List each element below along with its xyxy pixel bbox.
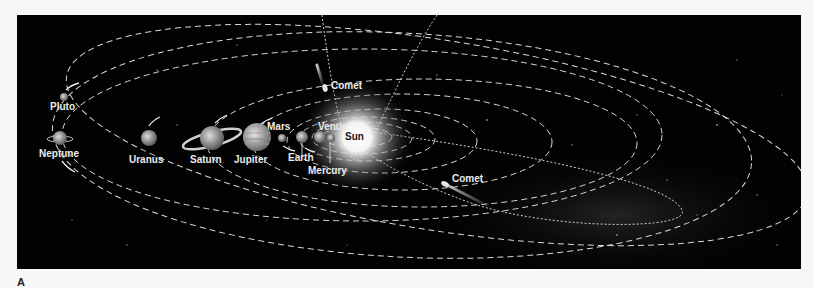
comet-tail	[317, 65, 324, 87]
diagram-canvas: Sun Mercury Venus Earth Mars	[17, 15, 801, 269]
planet-icon	[53, 131, 67, 145]
planet-icon	[278, 134, 286, 142]
saturn-label: Saturn	[190, 154, 222, 165]
neptune-label: Neptune	[39, 148, 79, 159]
figure-label: A	[17, 276, 25, 288]
uranus-label: Uranus	[129, 154, 164, 165]
pluto-label: Pluto	[50, 101, 75, 112]
planet-neptune: Neptune	[39, 131, 79, 172]
orbit-direction-arrow-icon	[149, 117, 160, 126]
planet-uranus: Uranus	[129, 117, 164, 165]
sun-label: Sun	[345, 131, 364, 142]
planet-icon	[141, 130, 157, 146]
planet-icon	[60, 93, 68, 101]
planet-mars: Mars	[267, 121, 295, 151]
comet-upper-label: Comet	[331, 80, 363, 91]
jupiter-label: Jupiter	[234, 154, 267, 165]
planet-pluto: Pluto	[50, 83, 79, 112]
planet-icon	[314, 131, 326, 143]
solar-system-diagram: Sun Mercury Venus Earth Mars	[17, 15, 801, 269]
orbit-direction-arrow-icon	[215, 115, 227, 123]
venus-label: Venus	[318, 121, 348, 132]
planet-icon	[243, 123, 271, 151]
comet-upper: Comet	[317, 65, 363, 93]
planet-icon	[327, 134, 335, 142]
earth-label: Earth	[288, 152, 314, 163]
planet-icon	[296, 131, 308, 143]
nebula-haze	[417, 145, 801, 269]
mercury-label: Mercury	[308, 165, 347, 176]
ringed-planet-icon	[200, 126, 224, 150]
comet-lower-label: Comet	[452, 173, 484, 184]
mars-label: Mars	[267, 121, 291, 132]
